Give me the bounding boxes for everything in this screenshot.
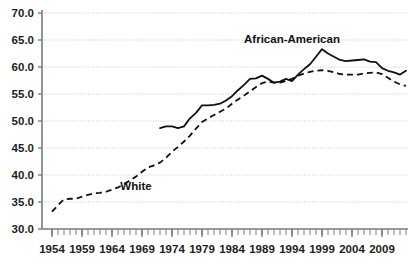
y-tick-label: 60.0 <box>12 61 34 73</box>
x-major-ticks-group <box>52 229 382 237</box>
gridlines-group <box>42 13 408 202</box>
y-tick-label: 70.0 <box>12 7 34 19</box>
x-minor-ticks-group <box>52 229 406 235</box>
series-line-white <box>52 70 406 211</box>
y-tick-label: 50.0 <box>12 115 34 127</box>
x-tick-label: 1999 <box>309 243 335 255</box>
y-tick-label: 35.0 <box>12 196 34 208</box>
series-line-african-american <box>160 49 406 128</box>
x-tick-label: 1984 <box>219 243 245 255</box>
x-tick-label: 1959 <box>69 243 95 255</box>
x-tick-label: 1994 <box>279 243 305 255</box>
y-tick-label: 40.0 <box>12 169 34 181</box>
series-label-african-american: African-American <box>244 33 340 45</box>
x-tick-labels-group: 1954195919641969197419791984198919941999… <box>39 243 395 255</box>
y-tick-labels-group: 70.065.060.055.050.045.040.035.030.0 <box>12 7 34 235</box>
y-tick-label: 55.0 <box>12 88 34 100</box>
series-annotations-group: African-AmericanWhite <box>120 33 340 192</box>
x-tick-label: 1974 <box>159 243 185 255</box>
x-tick-label: 1964 <box>99 243 125 255</box>
x-tick-label: 2004 <box>339 243 365 255</box>
y-tick-label: 45.0 <box>12 142 34 154</box>
x-tick-label: 1969 <box>129 243 155 255</box>
x-tick-label: 2009 <box>369 243 395 255</box>
x-tick-label: 1979 <box>189 243 215 255</box>
y-tick-label: 65.0 <box>12 34 34 46</box>
x-tick-label: 1954 <box>39 243 65 255</box>
x-tick-label: 1989 <box>249 243 275 255</box>
chart-canvas: 70.065.060.055.050.045.040.035.030.0 195… <box>0 0 414 266</box>
line-chart: 70.065.060.055.050.045.040.035.030.0 195… <box>0 0 414 266</box>
series-label-white: White <box>120 180 151 192</box>
y-tick-label: 30.0 <box>12 223 34 235</box>
